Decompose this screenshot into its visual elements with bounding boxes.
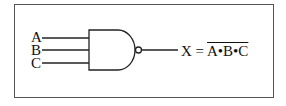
nand-gate-body — [89, 30, 135, 70]
input-label-c: C — [31, 56, 41, 71]
negated-product: A•B•C — [207, 43, 248, 59]
output-variable: X — [181, 43, 192, 59]
inversion-bubble — [136, 47, 142, 53]
equals-sign: = — [196, 43, 204, 59]
output-expression: X = A•B•C — [181, 44, 248, 59]
